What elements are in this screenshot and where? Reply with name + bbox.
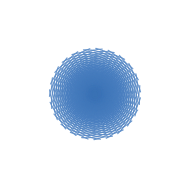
spiral-segment: [79, 57, 83, 58]
spiral-segment: [130, 79, 131, 83]
spiral-core: [86, 85, 105, 104]
spiral-segment: [107, 129, 111, 130]
spiral-segment: [106, 132, 110, 133]
spiral-segment: [107, 136, 112, 137]
spiral-segment: [77, 52, 82, 53]
spiral-grid-figure: [0, 0, 190, 194]
spiral-segment: [132, 89, 133, 93]
spiral-segment: [93, 131, 97, 132]
figure-canvas: [0, 0, 190, 194]
spiral-segment: [95, 139, 100, 140]
spiral-segment: [54, 105, 55, 110]
spiral-segment: [134, 77, 135, 82]
spiral-segment: [60, 105, 61, 109]
spiral-segment: [91, 52, 96, 53]
spiral-segment: [95, 134, 99, 135]
spiral-segment: [89, 50, 94, 51]
spiral-segment: [56, 107, 57, 112]
spiral-segment: [92, 57, 96, 58]
spiral-segment: [89, 55, 93, 56]
core-halo: [92, 91, 97, 96]
spiral-segment: [80, 55, 85, 56]
spiral-segment: [52, 94, 53, 99]
spiral-segment: [134, 91, 135, 95]
spiral-segment: [58, 104, 59, 108]
spiral-segment: [137, 88, 138, 93]
spiral-segment: [56, 94, 57, 98]
